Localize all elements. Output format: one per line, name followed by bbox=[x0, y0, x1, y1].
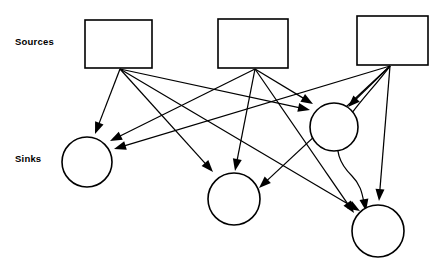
sink-node-sink-3 bbox=[352, 205, 404, 257]
edge-source-1-to-sink-1 bbox=[98, 69, 120, 126]
diagram-canvas: Sources Sinks bbox=[0, 0, 437, 265]
arrow-head-source-2-to-sink-4 bbox=[300, 94, 313, 104]
source-node-source-2 bbox=[218, 19, 288, 68]
arrow-head-source-3-to-sink-3 bbox=[375, 189, 384, 201]
arrow-head-source-1-to-sink-4 bbox=[297, 103, 310, 112]
arrow-head-source-1-to-sink-1 bbox=[95, 121, 104, 134]
source-node-source-3 bbox=[357, 16, 428, 65]
arrow-head-source-2-to-sink-2 bbox=[233, 158, 242, 171]
edge-source-2-to-sink-2 bbox=[237, 69, 255, 162]
source-node-source-1 bbox=[85, 20, 152, 68]
sink-node-sink-1 bbox=[62, 137, 112, 187]
sink-node-sink-2 bbox=[208, 173, 260, 225]
edge-source-1-to-sink-4 bbox=[120, 69, 301, 108]
diagram-graphic bbox=[0, 0, 437, 265]
edge-source-1-to-sink-2 bbox=[120, 69, 207, 165]
edge-source-3-to-sink-3 bbox=[380, 66, 390, 192]
sink-node-sink-4 bbox=[310, 103, 358, 151]
edge-source-2-to-sink-4 bbox=[255, 69, 305, 99]
arrow-head-source-3-to-sink-1 bbox=[114, 141, 127, 150]
arrow-head-source-2-to-sink-1 bbox=[110, 132, 123, 141]
